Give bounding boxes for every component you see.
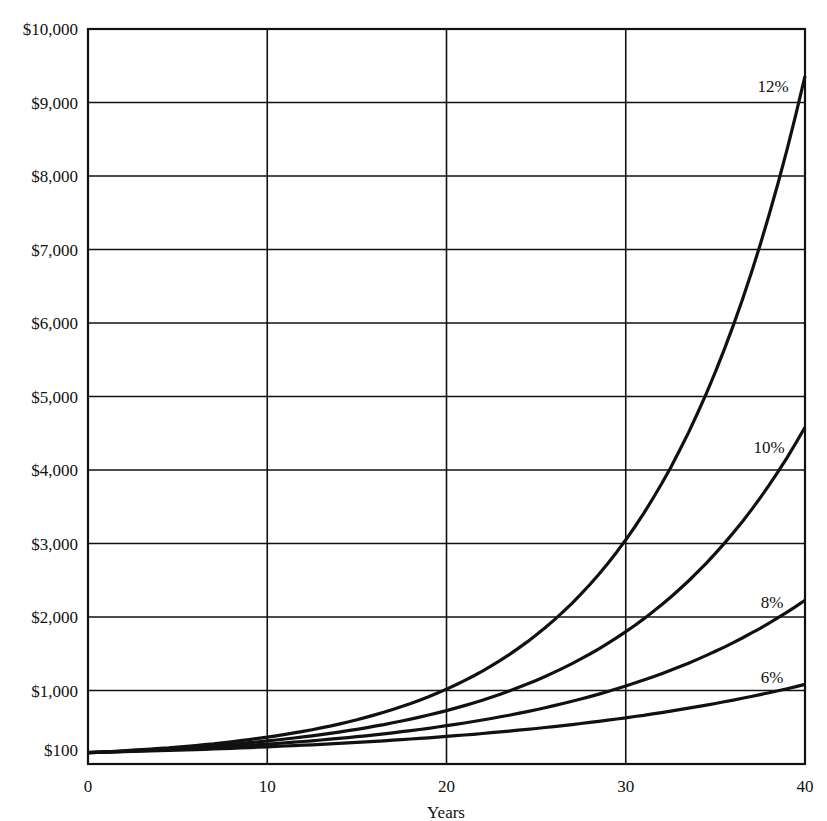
x-tick-label: 40 bbox=[797, 777, 814, 796]
compound-growth-chart: $100$1,000$2,000$3,000$4,000$5,000$6,000… bbox=[0, 0, 827, 821]
y-tick-label: $4,000 bbox=[31, 461, 78, 480]
y-tick-label: $6,000 bbox=[31, 314, 78, 333]
y-tick-label: $9,000 bbox=[31, 94, 78, 113]
series-label: 6% bbox=[761, 668, 784, 687]
y-tick-label: $5,000 bbox=[31, 388, 78, 407]
x-axis-label: Years bbox=[427, 803, 465, 821]
grid-lines bbox=[88, 29, 805, 764]
y-tick-label: $7,000 bbox=[31, 241, 78, 260]
y-axis-tick-labels: $100$1,000$2,000$3,000$4,000$5,000$6,000… bbox=[23, 20, 78, 760]
y-tick-label: $8,000 bbox=[31, 167, 78, 186]
series-label: 8% bbox=[761, 593, 784, 612]
x-tick-label: 30 bbox=[617, 777, 634, 796]
x-tick-label: 20 bbox=[438, 777, 455, 796]
y-tick-label: $1,000 bbox=[31, 682, 78, 701]
x-tick-label: 10 bbox=[259, 777, 276, 796]
y-tick-label: $3,000 bbox=[31, 535, 78, 554]
series-label: 12% bbox=[757, 77, 788, 96]
y-tick-label: $2,000 bbox=[31, 608, 78, 627]
y-tick-label: $100 bbox=[44, 741, 78, 760]
x-axis-tick-labels: 010203040 bbox=[84, 777, 814, 796]
x-tick-label: 0 bbox=[84, 777, 93, 796]
series-label: 10% bbox=[753, 438, 784, 457]
y-tick-label: $10,000 bbox=[23, 20, 78, 39]
